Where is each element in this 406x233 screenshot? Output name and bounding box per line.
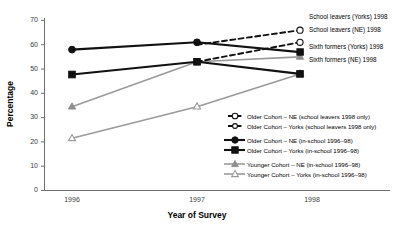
legend-item-older-yorks-leavers[interactable]: Older Cohort – Yorks (school leavers 199… [228, 123, 376, 130]
y-tick-label-30: 30 [30, 113, 38, 120]
y-axis-tick-labels: 0 10 20 30 40 50 60 70 [30, 16, 38, 193]
annotation-school-leavers-yorks: School leavers (Yorks) 1998 [309, 13, 388, 21]
chart-legend: Older Cohort – NE (school leavers 1998 o… [224, 113, 376, 178]
x-tick-label-1997: 1997 [189, 196, 205, 203]
series-older-ne-inschool [69, 39, 304, 55]
annotations: School leavers (Yorks) 1998 School leave… [309, 13, 388, 64]
chart-container: 0 10 20 30 40 50 60 70 1996 1997 1998 Ye… [0, 0, 406, 233]
y-axis-title: Percentage [5, 81, 15, 127]
annotation-sixth-formers-ne: Sixth formers (NE) 1998 [309, 56, 377, 64]
series-younger-ne-inschool [68, 53, 303, 109]
annotation-sixth-formers-yorks: Sixth formers (Yorks) 1998 [309, 43, 384, 51]
open-circle-icon [232, 113, 238, 119]
open-circle-small-icon [233, 124, 238, 129]
y-tick-label-70: 70 [30, 16, 38, 23]
x-axis-tick-labels: 1996 1997 1998 [64, 196, 320, 203]
line-chart: 0 10 20 30 40 50 60 70 1996 1997 1998 Ye… [0, 0, 406, 233]
filled-circle-icon [232, 137, 238, 143]
y-tick-label-0: 0 [34, 186, 38, 193]
y-tick-label-60: 60 [30, 41, 38, 48]
legend-item-older-ne-leavers[interactable]: Older Cohort – NE (school leavers 1998 o… [228, 113, 370, 120]
legend-label-0: Older Cohort – NE (school leavers 1998 o… [247, 113, 370, 120]
legend-item-older-ne-inschool[interactable]: Older Cohort – NE (in-school 1996–98) [224, 137, 353, 144]
legend-label-4: Younger Cohort – NE (in-school 1996–98) [247, 161, 360, 168]
series-older-ne-leavers [197, 27, 303, 45]
x-tick-label-1996: 1996 [64, 196, 80, 203]
annotation-school-leavers-ne: School leavers (NE) 1998 [309, 26, 381, 34]
legend-label-2: Older Cohort – NE (in-school 1996–98) [247, 137, 353, 144]
y-tick-label-40: 40 [30, 89, 38, 96]
x-tick-label-1998: 1998 [304, 196, 320, 203]
series-older-yorks-inschool [69, 59, 304, 78]
legend-label-1: Older Cohort – Yorks (school leavers 199… [247, 123, 376, 130]
legend-item-younger-yorks-inschool[interactable]: Younger Cohort – Yorks (in-school 1996–9… [224, 171, 367, 178]
y-tick-label-10: 10 [30, 162, 38, 169]
y-tick-label-50: 50 [30, 65, 38, 72]
legend-item-older-yorks-inschool[interactable]: Older Cohort – Yorks (in-school 1996–98) [224, 147, 359, 154]
y-axis-ticks [41, 20, 45, 190]
y-tick-label-20: 20 [30, 138, 38, 145]
legend-label-3: Older Cohort – Yorks (in-school 1996–98) [247, 147, 359, 154]
series-younger-yorks-inschool [68, 70, 303, 141]
x-axis-title: Year of Survey [167, 210, 226, 220]
legend-item-younger-ne-inschool[interactable]: Younger Cohort – NE (in-school 1996–98) [224, 161, 360, 168]
legend-label-5: Younger Cohort – Yorks (in-school 1996–9… [247, 171, 367, 178]
filled-square-icon [232, 147, 238, 153]
